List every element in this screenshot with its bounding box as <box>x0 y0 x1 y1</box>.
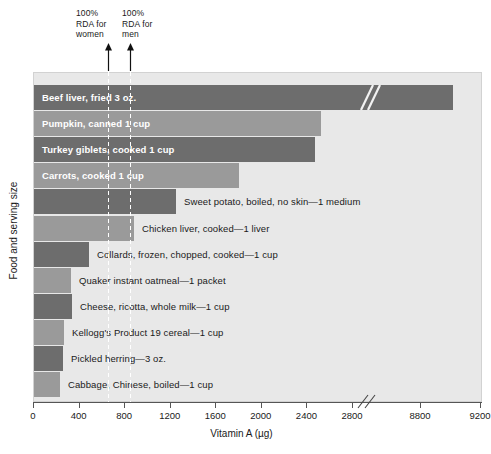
x-tick-label: 2800 <box>341 410 362 421</box>
x-axis-line <box>33 402 482 403</box>
bar <box>34 268 71 293</box>
x-tick <box>124 402 125 408</box>
bar-row: Cabbage, Chinese, boiled—1 cup <box>34 372 483 397</box>
bar-label: Chicken liver, cooked—1 liver <box>142 216 270 241</box>
bar <box>34 242 89 267</box>
bar <box>34 346 63 371</box>
bar-row: Quaker instant oatmeal—1 packet <box>34 268 483 293</box>
bar-label: Cheese, ricotta, whole milk—1 cup <box>80 294 230 319</box>
x-tick <box>33 402 34 408</box>
rda-women-guideline <box>108 72 109 402</box>
bar <box>34 372 60 397</box>
x-tick-label: 400 <box>71 410 87 421</box>
bar-row: Pumpkin, canned 1 cup <box>34 111 483 136</box>
x-tick-label: 9200 <box>469 410 490 421</box>
bar-label: Pumpkin, canned 1 cup <box>42 111 150 136</box>
bar <box>34 320 64 345</box>
bar-label: Sweet potato, boiled, no skin—1 medium <box>184 189 360 214</box>
x-tick-label: 2400 <box>296 410 317 421</box>
x-tick <box>306 402 307 408</box>
x-tick <box>215 402 216 408</box>
rda-men-arrow-icon <box>126 43 135 71</box>
bar-row: Sweet potato, boiled, no skin—1 medium <box>34 189 483 214</box>
bar-label: Kellogg's Product 19 cereal—1 cup <box>72 320 223 345</box>
rda-women-note: 100% RDA for women <box>76 8 120 40</box>
bar-row: Pickled herring—3 oz. <box>34 346 483 371</box>
bar-row: Beef liver, fried 3 oz. <box>34 85 483 110</box>
rda-men-guideline <box>130 72 131 402</box>
x-tick-label: 8800 <box>409 410 430 421</box>
bar <box>34 294 72 319</box>
bar-label: Collards, frozen, chopped, cooked—1 cup <box>97 242 278 267</box>
bar-row: Cheese, ricotta, whole milk—1 cup <box>34 294 483 319</box>
bar-row: Chicken liver, cooked—1 liver <box>34 216 483 241</box>
x-axis-break-icon <box>352 394 382 410</box>
bar-label: Beef liver, fried 3 oz. <box>42 85 136 110</box>
plot-area: Beef liver, fried 3 oz.Pumpkin, canned 1… <box>33 72 482 402</box>
x-tick-label: 2000 <box>250 410 271 421</box>
bar-label: Cabbage, Chinese, boiled—1 cup <box>68 372 213 397</box>
bar-row: Kellogg's Product 19 cereal—1 cup <box>34 320 483 345</box>
x-tick <box>79 402 80 408</box>
x-tick <box>170 402 171 408</box>
rda-men-note: 100% RDA for men <box>122 8 166 40</box>
rda-women-arrow-icon <box>104 43 113 71</box>
bar-label: Carrots, cooked 1 cup <box>42 163 144 188</box>
x-tick <box>420 402 421 408</box>
bar-row: Carrots, cooked 1 cup <box>34 163 483 188</box>
x-tick-label: 800 <box>116 410 132 421</box>
x-tick-label: 0 <box>30 410 35 421</box>
bar-row: Turkey giblets, cooked 1 cup <box>34 137 483 162</box>
x-tick-label: 1600 <box>205 410 226 421</box>
bar-label: Pickled herring—3 oz. <box>71 346 166 371</box>
bar <box>34 189 176 214</box>
bar <box>34 216 134 241</box>
x-axis-title: Vitamin A (µg) <box>0 428 483 439</box>
x-tick-label: 1200 <box>159 410 180 421</box>
x-tick <box>480 402 481 408</box>
bar-row: Collards, frozen, chopped, cooked—1 cup <box>34 242 483 267</box>
x-tick <box>261 402 262 408</box>
y-axis-title: Food and serving size <box>8 156 19 306</box>
bar-label: Quaker instant oatmeal—1 packet <box>79 268 226 293</box>
